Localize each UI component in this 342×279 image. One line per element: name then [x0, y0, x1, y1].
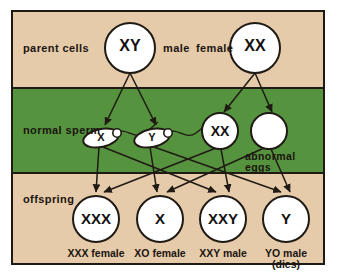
diagram-canvas: parent cells normal sperm offspring male… — [0, 0, 342, 279]
genotype-father: XY — [105, 37, 155, 55]
genotype-offspring-xxy: XXY — [198, 210, 248, 227]
genotype-offspring-x: X — [135, 210, 185, 227]
row-label-offspring: offspring — [23, 193, 74, 205]
genotype-offspring-y: Y — [261, 210, 311, 227]
genotype-sperm-y: Y — [137, 131, 167, 143]
row-label-parent-cells: parent cells — [23, 42, 89, 54]
genotype-offspring-xxx: XXX — [71, 210, 121, 227]
abnormal-egg-o[interactable] — [251, 113, 287, 149]
caption-offspring-y-note: (dies) — [246, 258, 326, 270]
label-male: male — [163, 42, 190, 54]
abnormal-eggs-label-line2: eggs — [245, 161, 271, 173]
genotype-mother: XX — [230, 37, 280, 55]
genotype-sperm-x: X — [86, 131, 116, 143]
label-female: female — [196, 42, 233, 54]
genotype-egg-xx: XX — [200, 123, 240, 139]
